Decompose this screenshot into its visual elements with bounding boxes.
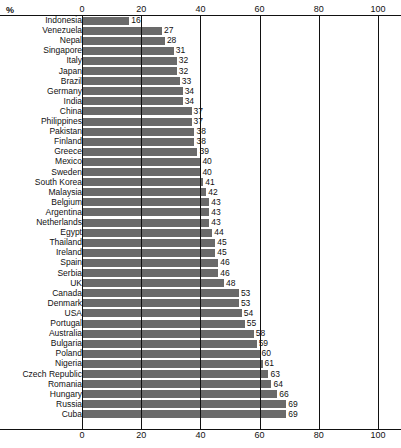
category-label: Canada <box>4 288 82 298</box>
bar[interactable] <box>82 279 224 287</box>
category-label: Mexico <box>4 156 82 166</box>
bar-value-label: 16 <box>131 15 140 25</box>
category-label: Australia <box>4 328 82 338</box>
bar-value-label: 44 <box>214 227 223 237</box>
bar[interactable] <box>82 57 177 65</box>
category-label: India <box>4 96 82 106</box>
bar[interactable] <box>82 249 215 257</box>
category-label: Czech Republic <box>4 369 82 379</box>
category-label: Ireland <box>4 247 82 257</box>
category-label: Russia <box>4 399 82 409</box>
bar-value-label: 34 <box>185 96 194 106</box>
bar[interactable] <box>82 37 165 45</box>
bar[interactable] <box>82 118 192 126</box>
x-axis-tick-label-top: 40 <box>195 4 205 14</box>
category-label: Romania <box>4 379 82 389</box>
x-axis-bottom: 020406080100 <box>0 430 401 444</box>
bar-value-label: 60 <box>262 348 271 358</box>
bar[interactable] <box>82 380 271 388</box>
x-axis-tick-label-bottom: 100 <box>370 430 385 440</box>
bar[interactable] <box>82 360 263 368</box>
category-label: Spain <box>4 257 82 267</box>
category-label: South Korea <box>4 177 82 187</box>
x-axis-tick-label-bottom: 0 <box>79 430 84 440</box>
bar[interactable] <box>82 77 180 85</box>
category-label: Singapore <box>4 45 82 55</box>
bar[interactable] <box>82 219 209 227</box>
bar[interactable] <box>82 87 183 95</box>
gridline-vertical <box>200 16 201 429</box>
bar[interactable] <box>82 269 218 277</box>
gridline-vertical <box>141 16 142 429</box>
bar-value-label: 43 <box>211 197 220 207</box>
bar-value-label: 43 <box>211 217 220 227</box>
bar[interactable] <box>82 289 239 297</box>
bar[interactable] <box>82 350 260 358</box>
bar-value-label: 66 <box>279 389 288 399</box>
bar[interactable] <box>82 67 177 75</box>
bar[interactable] <box>82 410 286 418</box>
bar[interactable] <box>82 97 183 105</box>
category-label: Belgium <box>4 197 82 207</box>
bar[interactable] <box>82 17 129 25</box>
bar[interactable] <box>82 47 174 55</box>
category-label: Italy <box>4 55 82 65</box>
gridline-vertical <box>319 16 320 429</box>
bar[interactable] <box>82 27 162 35</box>
category-label: Nigeria <box>4 358 82 368</box>
bar[interactable] <box>82 299 239 307</box>
x-axis-tick-label-bottom: 20 <box>136 430 146 440</box>
category-label: Netherlands <box>4 217 82 227</box>
bar[interactable] <box>82 400 286 408</box>
bar-value-label: 40 <box>202 167 211 177</box>
category-label: Sweden <box>4 167 82 177</box>
gridline-vertical <box>260 16 261 429</box>
bar[interactable] <box>82 128 194 136</box>
bar-value-label: 69 <box>288 399 297 409</box>
category-label: Malaysia <box>4 187 82 197</box>
bar[interactable] <box>82 320 245 328</box>
category-label: Argentina <box>4 207 82 217</box>
bar-value-label: 31 <box>176 45 185 55</box>
bar[interactable] <box>82 239 215 247</box>
bar[interactable] <box>82 208 209 216</box>
x-axis-tick-label-bottom: 80 <box>314 430 324 440</box>
gridline-vertical <box>378 16 379 429</box>
x-axis-tick-label-bottom: 60 <box>255 430 265 440</box>
bar[interactable] <box>82 198 209 206</box>
bar[interactable] <box>82 138 194 146</box>
bar-value-label: 53 <box>241 298 250 308</box>
bar[interactable] <box>82 330 254 338</box>
bar[interactable] <box>82 259 218 267</box>
bar[interactable] <box>82 340 257 348</box>
gridline-vertical <box>82 16 83 429</box>
bar-value-label: 32 <box>179 66 188 76</box>
bar[interactable] <box>82 188 206 196</box>
category-label: Philippines <box>4 116 82 126</box>
bar[interactable] <box>82 390 277 398</box>
bar-value-label: 54 <box>244 308 253 318</box>
bar[interactable] <box>82 107 192 115</box>
category-label: Serbia <box>4 268 82 278</box>
category-label: Hungary <box>4 389 82 399</box>
bar[interactable] <box>82 370 268 378</box>
bar[interactable] <box>82 178 203 186</box>
bar-value-label: 37 <box>194 106 203 116</box>
category-label: UK <box>4 278 82 288</box>
bar-value-label: 46 <box>220 268 229 278</box>
bar[interactable] <box>82 148 197 156</box>
horizontal-bar-chart: % 020406080100 020406080100 Indonesia16V… <box>0 0 401 448</box>
category-label: Cuba <box>4 409 82 419</box>
category-label: Pakistan <box>4 126 82 136</box>
bar-value-label: 41 <box>205 177 214 187</box>
bar-value-label: 28 <box>167 35 176 45</box>
category-label: Thailand <box>4 237 82 247</box>
bar-value-label: 34 <box>185 86 194 96</box>
category-label: Germany <box>4 86 82 96</box>
category-label: Venezuela <box>4 25 82 35</box>
bar[interactable] <box>82 309 242 317</box>
bar[interactable] <box>82 229 212 237</box>
category-label: Portugal <box>4 318 82 328</box>
bar-value-label: 48 <box>226 278 235 288</box>
bar-value-label: 40 <box>202 156 211 166</box>
